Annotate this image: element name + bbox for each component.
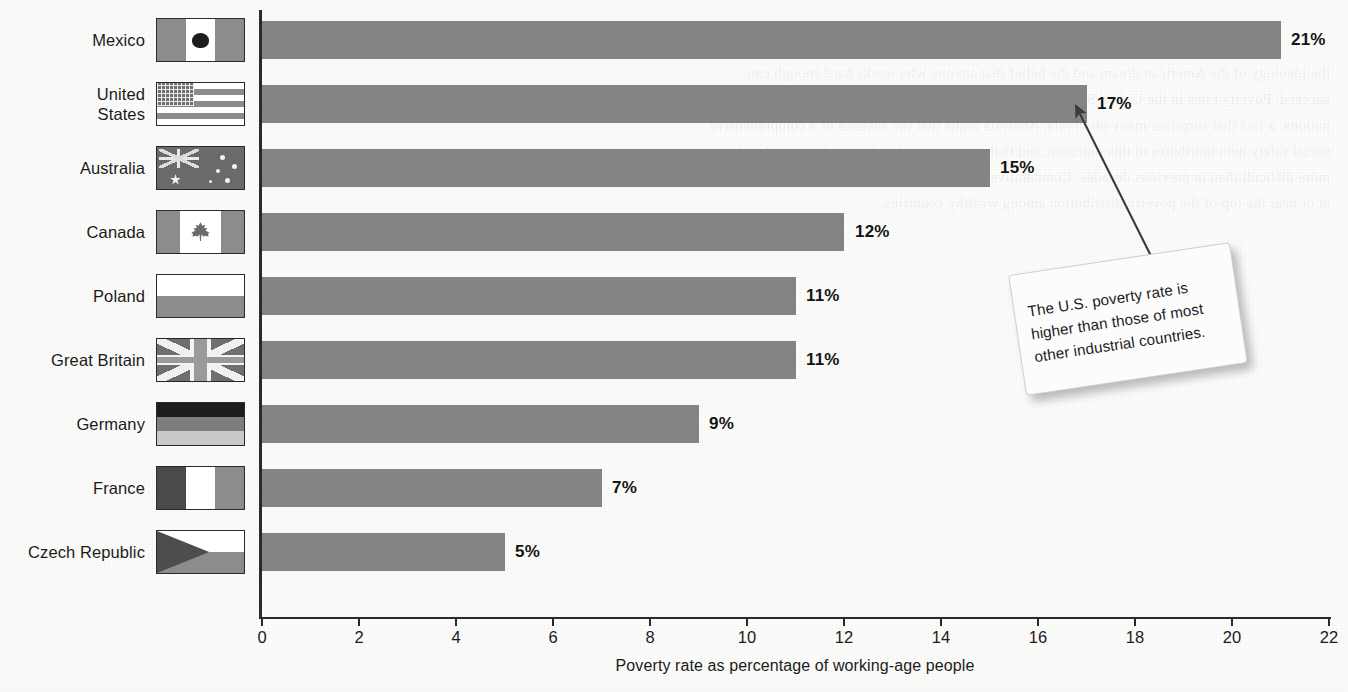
callout-annotation: The U.S. poverty rate is higher than tho… <box>0 0 1348 692</box>
callout-text: The U.S. poverty rate is higher than tho… <box>1026 274 1208 368</box>
chart-page: the ideology of the American dream and t… <box>0 0 1348 692</box>
